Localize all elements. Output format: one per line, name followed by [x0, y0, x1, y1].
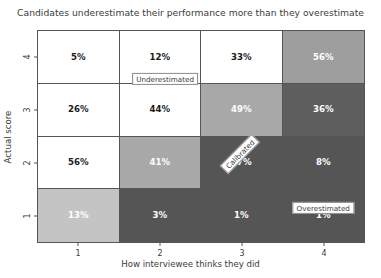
heatmap-cell-value: 44%	[149, 105, 170, 114]
x-tick-label: 3	[239, 249, 244, 258]
x-tick-mark	[78, 243, 79, 246]
heatmap-cell: 49%	[201, 84, 283, 137]
heatmap-cell: 13%	[38, 189, 120, 242]
heatmap-cell-value: 1%	[234, 211, 249, 220]
heatmap-cell-value: 5%	[71, 53, 86, 62]
heatmap-cell-value: 56%	[313, 53, 334, 62]
heatmap-cell-value: 56%	[68, 158, 89, 167]
y-tick-label: 4	[23, 54, 32, 59]
heatmap-cell-value: 3%	[152, 211, 167, 220]
heatmap-grid: 5%12%33%56%26%44%49%36%56%41%17%8%13%3%1…	[37, 30, 365, 243]
x-tick-mark	[160, 243, 161, 246]
heatmap-cell: 33%	[201, 31, 283, 84]
y-axis-ticks: 4321	[0, 30, 37, 243]
y-tick-label: 2	[23, 161, 32, 166]
heatmap-cell: 5%	[38, 31, 120, 84]
y-tick-label: 3	[23, 107, 32, 112]
x-tick-mark	[324, 243, 325, 246]
annotation-label: Overestimated	[293, 202, 354, 214]
heatmap-cell-value: 33%	[231, 53, 252, 62]
heatmap-cell-value: 12%	[149, 53, 170, 62]
x-tick-mark	[242, 243, 243, 246]
heatmap-cell: 3%	[120, 189, 202, 242]
heatmap-cell: 44%	[120, 84, 202, 137]
chart-title: Candidates underestimate their performan…	[0, 7, 381, 18]
x-tick-label: 1	[75, 249, 80, 258]
x-axis-title: How interviewee thinks they did	[0, 259, 381, 269]
annotation-label: Underestimated	[132, 73, 198, 85]
heatmap-cell: 41%	[120, 137, 202, 190]
heatmap-cell: 1%	[283, 189, 365, 242]
heatmap-cell-value: 8%	[316, 158, 331, 167]
heatmap-cell-value: 49%	[231, 105, 252, 114]
heatmap-cell-value: 41%	[149, 158, 170, 167]
heatmap-cell-value: 13%	[68, 211, 89, 220]
x-tick-label: 4	[321, 249, 326, 258]
heatmap-figure: Candidates underestimate their performan…	[0, 0, 381, 278]
heatmap-cell-value: 26%	[68, 105, 89, 114]
x-tick-label: 2	[157, 249, 162, 258]
heatmap-cell: 36%	[283, 84, 365, 137]
heatmap-cell: 1%	[201, 189, 283, 242]
heatmap-cell: 56%	[283, 31, 365, 84]
heatmap-cell: 56%	[38, 137, 120, 190]
heatmap-cell: 26%	[38, 84, 120, 137]
heatmap-cell: 8%	[283, 137, 365, 190]
y-tick-label: 1	[23, 214, 32, 219]
heatmap-cell-value: 36%	[313, 105, 334, 114]
